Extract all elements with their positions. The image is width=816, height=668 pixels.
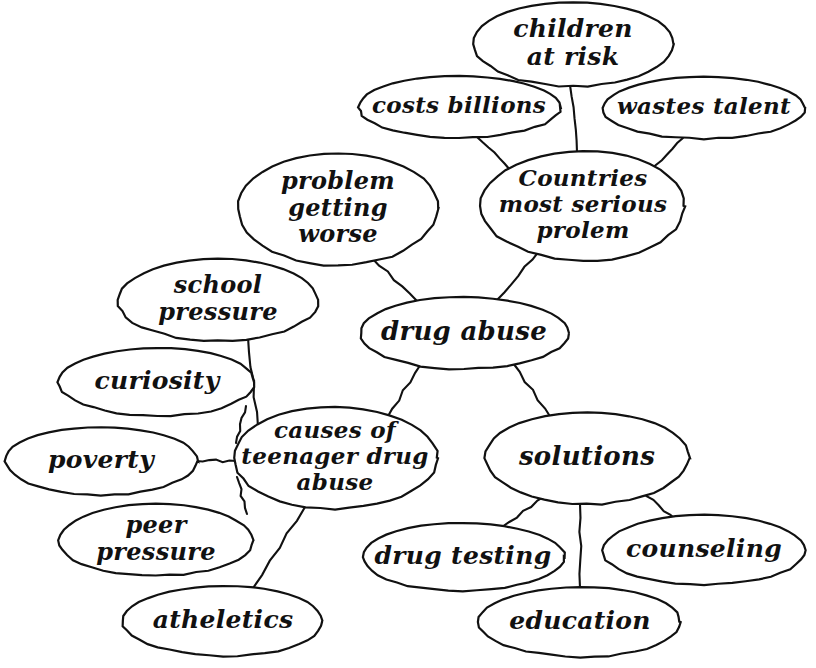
- node-label-curiosity: curiosity: [94, 366, 220, 395]
- edge-countries_most_serious_prolem-to-wastes_talent: [650, 138, 683, 170]
- node-label-causes_of_teenager_drug_abuse: teenager drug: [241, 442, 428, 469]
- node-children_at_risk[interactable]: childrenat risk: [473, 2, 674, 86]
- node-school_pressure[interactable]: schoolpressure: [118, 259, 319, 341]
- node-label-poverty: poverty: [48, 445, 155, 474]
- edge-countries_most_serious_prolem-to-children_at_risk: [570, 85, 577, 152]
- node-label-solutions: solutions: [518, 441, 655, 471]
- node-label-countries_most_serious_prolem: Countries: [519, 164, 648, 191]
- edge-drug_abuse-to-causes_of_teenager_drug_abuse: [387, 364, 421, 418]
- node-label-children_at_risk: at risk: [527, 42, 620, 71]
- node-counseling[interactable]: counseling: [602, 515, 805, 585]
- node-drug_testing[interactable]: drug testing: [363, 523, 565, 591]
- edge-causes_of_teenager_drug_abuse-to-atheletics: [253, 507, 305, 588]
- edge-drug_abuse-to-problem_getting_worse: [372, 258, 417, 301]
- node-label-peer_pressure: pressure: [96, 537, 215, 566]
- node-label-school_pressure: pressure: [158, 297, 277, 326]
- node-problem_getting_worse[interactable]: problemgettingworse: [238, 154, 438, 266]
- node-label-problem_getting_worse: getting: [288, 193, 388, 222]
- node-label-causes_of_teenager_drug_abuse: causes of: [274, 416, 400, 443]
- node-atheletics[interactable]: atheletics: [123, 586, 323, 657]
- node-label-education: education: [509, 606, 651, 635]
- node-poverty[interactable]: poverty: [5, 427, 198, 495]
- edge-causes_of_teenager_drug_abuse-to-poverty: [196, 460, 236, 463]
- mind-map-canvas: childrenat riskcosts billionswastes tale…: [0, 0, 816, 668]
- node-countries_most_serious_prolem[interactable]: Countriesmost seriousprolem: [480, 151, 685, 261]
- node-label-children_at_risk: children: [513, 14, 633, 43]
- nodes-layer: childrenat riskcosts billionswastes tale…: [5, 2, 806, 657]
- node-label-peer_pressure: peer: [125, 510, 188, 539]
- node-costs_billions[interactable]: costs billions: [358, 76, 560, 138]
- node-label-drug_abuse: drug abuse: [381, 316, 547, 346]
- node-label-problem_getting_worse: worse: [298, 219, 378, 248]
- edge-solutions-to-education: [579, 504, 581, 588]
- node-wastes_talent[interactable]: wastes talent: [603, 77, 805, 140]
- edge-drug_abuse-to-solutions: [513, 363, 551, 418]
- node-label-countries_most_serious_prolem: most serious: [499, 190, 667, 217]
- edge-solutions-to-drug_testing: [502, 496, 545, 527]
- node-curiosity[interactable]: curiosity: [57, 348, 254, 416]
- node-label-countries_most_serious_prolem: prolem: [536, 216, 629, 243]
- node-label-costs_billions: costs billions: [372, 91, 546, 118]
- node-label-counseling: counseling: [626, 534, 782, 563]
- edge-drug_abuse-to-countries_most_serious_prolem: [497, 251, 539, 300]
- node-label-school_pressure: school: [173, 270, 263, 299]
- mind-map-svg: childrenat riskcosts billionswastes tale…: [0, 0, 816, 668]
- node-label-wastes_talent: wastes talent: [617, 92, 791, 119]
- node-label-problem_getting_worse: problem: [281, 166, 395, 195]
- node-peer_pressure[interactable]: peerpressure: [58, 504, 253, 576]
- node-drug_abuse[interactable]: drug abuse: [361, 297, 569, 369]
- node-education[interactable]: education: [478, 587, 681, 658]
- node-causes_of_teenager_drug_abuse[interactable]: causes ofteenager drugabuse: [234, 407, 438, 510]
- node-label-atheletics: atheletics: [153, 605, 294, 634]
- node-label-causes_of_teenager_drug_abuse: abuse: [297, 468, 374, 495]
- node-label-drug_testing: drug testing: [375, 541, 552, 570]
- node-solutions[interactable]: solutions: [484, 412, 690, 504]
- edge-countries_most_serious_prolem-to-costs_billions: [477, 137, 510, 170]
